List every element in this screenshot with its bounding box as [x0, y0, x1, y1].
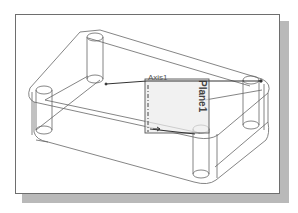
plane1-label: Plane1	[197, 80, 208, 113]
plane1[interactable]: Plane1	[145, 79, 209, 133]
cylinder-back-right	[243, 76, 264, 130]
cylinder-front-left	[32, 86, 52, 135]
cylinder-back-left	[87, 33, 103, 83]
wireframe-drawing: Plane1 Axis1	[0, 0, 298, 213]
